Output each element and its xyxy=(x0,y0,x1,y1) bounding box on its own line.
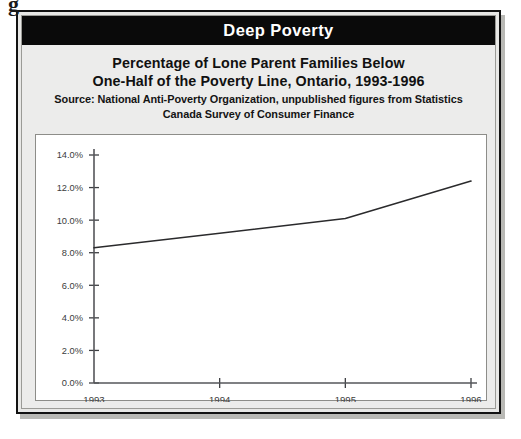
source-line-1: Source: National Anti-Poverty Organizati… xyxy=(36,92,481,107)
data-series-line xyxy=(94,181,471,248)
y-tick-label: 6.0% xyxy=(62,281,83,291)
x-tick-label: 1993 xyxy=(83,394,104,402)
x-axis-labels: 1993199419951996 xyxy=(83,394,481,402)
y-tick-label: 10.0% xyxy=(57,216,83,226)
figure-frame: Deep Poverty Percentage of Lone Parent F… xyxy=(16,10,501,414)
x-tick-label: 1995 xyxy=(335,394,356,402)
chart-title-line-1: Percentage of Lone Parent Families Below xyxy=(36,54,481,72)
y-axis-labels: 0.0%2.0%4.0%6.0%8.0%10.0%12.0%14.0% xyxy=(57,150,83,388)
x-tick-label: 1996 xyxy=(460,394,481,402)
y-tick-label: 4.0% xyxy=(62,313,83,323)
y-tick-label: 14.0% xyxy=(57,150,83,160)
chart-panel: 0.0%2.0%4.0%6.0%8.0%10.0%12.0%14.0% 1993… xyxy=(35,134,487,401)
heading-block: Percentage of Lone Parent Families Below… xyxy=(22,47,495,122)
source-line-2: Canada Survey of Consumer Finance xyxy=(36,107,481,122)
line-chart-svg: 0.0%2.0%4.0%6.0%8.0%10.0%12.0%14.0% 1993… xyxy=(36,135,488,402)
figure-inner-border: Deep Poverty Percentage of Lone Parent F… xyxy=(21,15,496,409)
y-tick-label: 0.0% xyxy=(62,378,83,388)
chart-title-line-2: One-Half of the Poverty Line, Ontario, 1… xyxy=(36,72,481,90)
x-tick-label: 1994 xyxy=(209,394,231,402)
scan-artifact-glyph: g xyxy=(8,0,18,17)
y-tick-label: 8.0% xyxy=(62,248,83,258)
banner-title: Deep Poverty xyxy=(223,21,333,40)
banner: Deep Poverty xyxy=(22,16,495,45)
y-tick-label: 12.0% xyxy=(57,183,83,193)
y-tick-label: 2.0% xyxy=(62,346,83,356)
plot-area: 0.0%2.0%4.0%6.0%8.0%10.0%12.0%14.0% 1993… xyxy=(36,135,486,400)
